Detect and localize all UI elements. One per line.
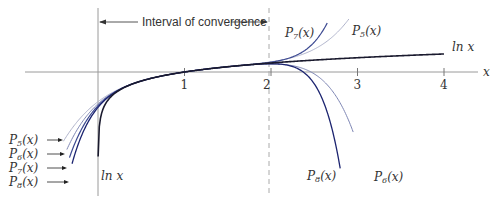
label-p7-top: P7(x) (284, 26, 315, 41)
curves (63, 19, 444, 168)
label-lnx-right: ln x (452, 40, 474, 54)
label-lnx-bottom: ln x (101, 169, 123, 183)
svg-text:P7(x): P7(x) (8, 161, 39, 176)
tick-label: 3 (354, 78, 362, 92)
x-axis-label: x (483, 65, 490, 79)
label-p5-top: P5(x) (351, 24, 382, 39)
label-p8-bottom: P8(x) (306, 169, 337, 184)
taylor-convergence-diagram: 1234 x Interval of convergence ln x ln x… (0, 0, 495, 198)
tick-label: 4 (440, 78, 448, 92)
curve-p8 (72, 64, 340, 169)
tick-label: 1 (181, 78, 189, 92)
curve-p6 (67, 64, 353, 150)
arrow-icon (62, 166, 67, 170)
tick-label: 2 (263, 78, 271, 92)
svg-text:P5(x): P5(x) (8, 133, 39, 148)
curve-p7 (69, 23, 327, 158)
label-p6-bottom: P6(x) (373, 170, 404, 185)
arrow-icon (64, 180, 69, 184)
left-legend: P5(x) P6(x) P7(x) P8(x) (8, 133, 69, 190)
interval-annotation: Interval of convergence (99, 15, 268, 29)
arrow-icon (58, 138, 63, 142)
svg-text:P6(x): P6(x) (8, 147, 39, 162)
interval-label: Interval of convergence (142, 15, 267, 29)
arrow-left-icon (99, 20, 106, 25)
svg-text:P8(x): P8(x) (8, 175, 39, 190)
arrow-icon (60, 152, 65, 156)
